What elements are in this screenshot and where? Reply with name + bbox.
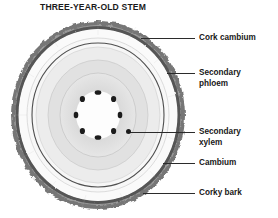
vessel-dot <box>111 128 116 134</box>
label-corky-bark: Corky bark <box>199 188 242 199</box>
leader-line-cork-cambium <box>141 38 195 39</box>
leader-anchor-dot-secondary-xylem <box>126 129 131 134</box>
label-secondary-phloem: Secondary phloem <box>199 68 241 89</box>
vessel-dot <box>95 90 102 95</box>
label-cork-cambium: Cork cambium <box>199 33 256 44</box>
stem-cross-section-illustration <box>8 15 188 215</box>
leader-line-secondary-phloem <box>167 73 195 74</box>
vessel-dot <box>80 128 85 134</box>
label-secondary-xylem: Secondary xylem <box>199 127 241 148</box>
vessel-dot <box>111 96 116 102</box>
leader-line-cambium <box>163 163 195 164</box>
vessel-dot <box>95 135 102 140</box>
vessel-dot <box>118 112 123 119</box>
vessel-dot <box>80 96 85 102</box>
diagram-page: THREE-YEAR-OLD STEM <box>0 0 278 218</box>
vessel-dot <box>74 112 79 119</box>
leader-line-secondary-xylem <box>129 132 195 133</box>
page-title: THREE-YEAR-OLD STEM <box>0 2 186 12</box>
leader-line-corky-bark <box>143 193 195 194</box>
label-cambium: Cambium <box>199 158 236 169</box>
